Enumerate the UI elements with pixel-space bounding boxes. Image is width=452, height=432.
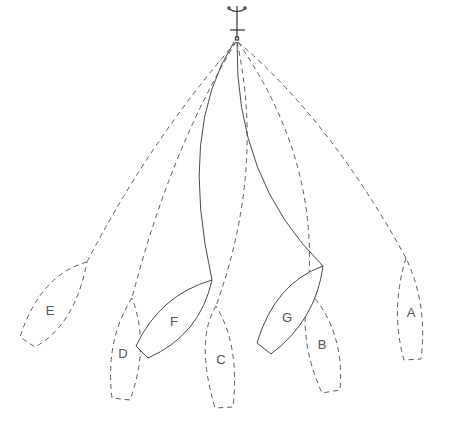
boat-D: D	[111, 298, 141, 400]
rode-B	[238, 42, 310, 290]
rode-D	[132, 42, 236, 298]
boat-D-label: D	[118, 346, 127, 361]
boat-E: E	[20, 262, 87, 347]
boat-F-label: F	[170, 314, 178, 329]
rode-C	[216, 42, 247, 306]
boat-C: C	[205, 306, 234, 408]
anchoring-diagram: E D C B A F G	[0, 0, 452, 432]
boat-E-label: E	[46, 303, 55, 318]
boat-A: A	[397, 258, 422, 360]
rode-G	[237, 42, 323, 266]
boat-F: F	[136, 280, 212, 358]
boat-C-label: C	[216, 352, 225, 367]
rode-E	[87, 42, 236, 262]
boat-B-label: B	[318, 337, 327, 352]
boat-A-label: A	[407, 305, 416, 320]
anchor-icon	[228, 6, 246, 40]
rodes	[87, 42, 406, 306]
boat-G: G	[257, 266, 323, 354]
boat-G-label: G	[282, 310, 292, 325]
rode-F	[199, 42, 234, 280]
rode-A	[238, 42, 406, 258]
